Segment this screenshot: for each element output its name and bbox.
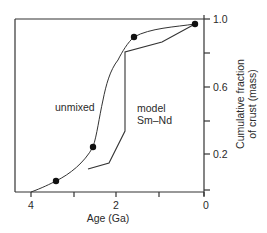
svg-text:0: 0	[203, 199, 209, 211]
data-point	[90, 144, 96, 150]
svg-text:0.2: 0.2	[213, 148, 228, 160]
svg-text:Cumulative fraction: Cumulative fraction	[234, 59, 246, 149]
x-axis-ticks	[31, 192, 204, 197]
y-tick-labels: 1.0 0.6 0.2	[213, 13, 228, 160]
label-model: model	[137, 102, 166, 114]
label-sm-nd: Sm–Nd	[137, 114, 172, 126]
svg-text:4: 4	[28, 199, 34, 211]
data-point	[192, 21, 198, 27]
label-unmixed: unmixed	[55, 101, 95, 113]
chart: 4 2 0 1.0 0.6 0.2 Age (Ga) Cumulative fr…	[0, 0, 267, 233]
svg-text:1.0: 1.0	[213, 13, 228, 25]
data-point	[131, 34, 137, 40]
x-axis-title: Age (Ga)	[87, 212, 130, 224]
plot-frame	[15, 15, 204, 196]
svg-text:of crust (mass): of crust (mass)	[246, 69, 258, 138]
svg-text:0.6: 0.6	[213, 81, 228, 93]
svg-text:2: 2	[113, 199, 119, 211]
y-axis-title: Cumulative fraction of crust (mass)	[234, 59, 258, 149]
x-tick-labels: 4 2 0	[28, 199, 209, 211]
y-axis-ticks	[204, 19, 210, 190]
data-point	[53, 178, 59, 184]
